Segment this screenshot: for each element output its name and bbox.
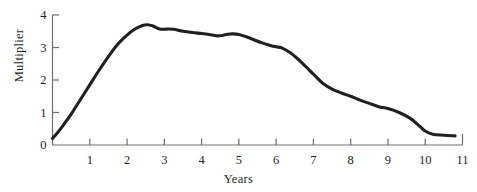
x-tick-label-6: 6	[273, 154, 279, 167]
x-axis-tick-marks	[90, 139, 425, 146]
axis-lines	[53, 15, 463, 145]
x-tick-label-7: 7	[310, 154, 316, 167]
x-tick-label-8: 8	[348, 154, 354, 167]
x-tick-label-11: 11	[456, 154, 468, 167]
x-tick-label-10: 10	[419, 154, 432, 167]
x-tick-label-9: 9	[385, 154, 391, 167]
data-line-multiplier	[53, 25, 456, 139]
x-tick-label-2: 2	[124, 154, 130, 167]
x-tick-label-4: 4	[198, 154, 204, 167]
x-axis-title: Years	[0, 172, 477, 187]
y-axis-tick-marks	[53, 15, 60, 113]
x-tick-label-5: 5	[236, 154, 242, 167]
y-axis-title: Multiplier	[12, 1, 27, 111]
chart-figure: 1234567891011 01234 Years Multiplier	[0, 0, 477, 192]
x-tick-label-1: 1	[87, 154, 93, 167]
y-tick-label-0: 0	[0, 139, 47, 152]
x-tick-label-3: 3	[161, 154, 167, 167]
data-series-group	[53, 25, 456, 139]
